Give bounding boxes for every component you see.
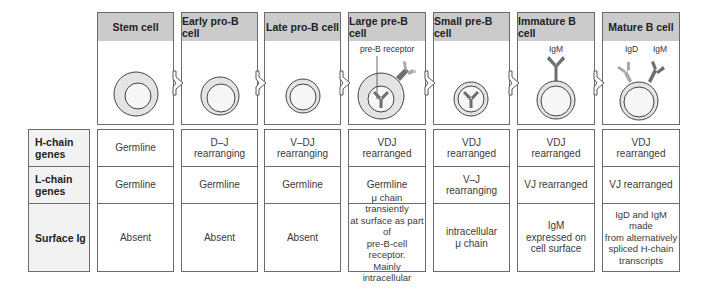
row-label-text: Surface Ig <box>35 232 86 244</box>
stage-illustration: IgD IgM <box>602 41 680 125</box>
cell-text: D–J <box>194 137 245 149</box>
progression-arrow-icon <box>424 70 436 96</box>
l-chain-cell: VJ rearranged <box>602 166 680 204</box>
cell-text: μ chain transiently <box>349 192 425 215</box>
stage-illustration <box>97 41 174 125</box>
h-chain-cell: V–DJrearranging <box>264 129 341 167</box>
stem-cell-icon <box>98 41 175 125</box>
stage-illustration <box>181 41 258 125</box>
late-pro-b-cell-icon <box>265 41 342 125</box>
stage-header: Mature B cell <box>602 12 680 42</box>
cell-text: Mainly intracellular <box>349 261 425 284</box>
surface-ig-cell: IgMexpressed oncell surface <box>517 203 595 272</box>
immature-b-cell-icon <box>518 41 596 125</box>
cell-text: VJ rearranged <box>609 179 672 191</box>
cell-text: μ chain <box>446 238 497 250</box>
row-label-h-chain: H-chaingenes <box>28 129 90 167</box>
cell-text: rearranged <box>532 148 581 160</box>
cell-text: rearranged <box>447 148 496 160</box>
cell-text: Germline <box>115 179 156 191</box>
h-chain-cell: VDJrearranged <box>433 129 510 167</box>
surface-ig-cell: μ chain transientlyat surface as part of… <box>348 203 426 272</box>
small-pre-b-cell-icon <box>434 41 511 125</box>
cell-text: rearranging <box>194 148 245 160</box>
cell-text: Absent <box>204 232 235 244</box>
h-chain-cell: Germline <box>97 129 174 167</box>
h-chain-cell: VDJrearranged <box>602 129 680 167</box>
progression-arrow-icon <box>593 70 605 96</box>
progression-arrow-icon <box>172 70 184 96</box>
surface-ig-cell: Absent <box>181 203 258 272</box>
cell-text: at surface as part of <box>349 215 425 238</box>
cell-text: expressed on <box>526 232 586 244</box>
cell-text: intracellular <box>446 226 497 238</box>
cell-text: VDJ <box>363 137 412 149</box>
l-chain-cell: Germline <box>181 166 258 204</box>
cell-text: Absent <box>120 232 151 244</box>
surface-ig-cell: Absent <box>97 203 174 272</box>
h-chain-cell: VDJrearranged <box>517 129 595 167</box>
stage-illustration: pre-B receptor <box>348 41 426 125</box>
progression-arrow-icon <box>255 70 267 96</box>
h-chain-cell: VDJrearranged <box>348 129 426 167</box>
stage-header: Immature B cell <box>517 12 595 42</box>
row-label-text: genes <box>35 148 74 160</box>
row-label-text: H-chain <box>35 136 74 148</box>
cell-text: pre-B-cell receptor. <box>349 238 425 261</box>
row-label-text: L-chain <box>35 173 72 185</box>
cell-text: spliced H-chain <box>603 243 679 255</box>
l-chain-cell: V–Jrearranging <box>433 166 510 204</box>
row-label-surface-ig: Surface Ig <box>28 203 90 272</box>
progression-arrow-icon <box>508 70 520 96</box>
cell-text: VDJ <box>617 137 666 149</box>
stage-illustration <box>433 41 510 125</box>
cell-text: rearranging <box>277 148 328 160</box>
progression-arrow-icon <box>339 70 351 96</box>
stage-header: Stem cell <box>97 12 174 42</box>
stage-illustration <box>264 41 341 125</box>
mature-b-cell-icon <box>603 41 681 125</box>
surface-ig-cell: Absent <box>264 203 341 272</box>
cell-text: IgD and IgM made <box>603 209 679 232</box>
igm-receptor-icon <box>547 56 565 82</box>
cell-text: VDJ <box>532 137 581 149</box>
cell-text: cell surface <box>526 243 586 255</box>
cell-text: Germline <box>115 142 156 154</box>
cell-text: rearranged <box>617 148 666 160</box>
cell-text: rearranging <box>446 185 497 197</box>
stage-header: Early pro-B cell <box>181 12 258 42</box>
cell-text: IgM <box>526 220 586 232</box>
surface-ig-cell: IgD and IgM madefrom alternativelysplice… <box>602 203 680 272</box>
cell-text: Absent <box>287 232 318 244</box>
row-label-l-chain: L-chaingenes <box>28 166 90 204</box>
surface-ig-cell: intracellularμ chain <box>433 203 510 272</box>
cell-text: rearranged <box>363 148 412 160</box>
large-pre-b-cell-icon <box>349 41 427 125</box>
early-pro-b-cell-icon <box>182 41 259 125</box>
cell-text: Germline <box>282 179 323 191</box>
stage-header: Large pre-B cell <box>348 12 426 42</box>
l-chain-cell: Germline <box>97 166 174 204</box>
cell-text: Germline <box>199 179 240 191</box>
stage-header: Late pro-B cell <box>264 12 341 42</box>
l-chain-cell: VJ rearranged <box>517 166 595 204</box>
cell-text: VDJ <box>447 137 496 149</box>
stage-header: Small pre-B cell <box>433 12 510 42</box>
cell-text: V–J <box>446 174 497 186</box>
cell-text: V–DJ <box>277 137 328 149</box>
pre-b-receptor-icon <box>396 61 416 81</box>
h-chain-cell: D–Jrearranging <box>181 129 258 167</box>
l-chain-cell: Germline <box>264 166 341 204</box>
igm-receptor-icon <box>648 61 665 83</box>
cell-text: transcripts <box>603 255 679 267</box>
igd-receptor-icon <box>617 62 632 83</box>
stage-illustration: IgM <box>517 41 595 125</box>
cell-text: from alternatively <box>603 232 679 244</box>
cell-text: Germline <box>367 179 408 191</box>
row-label-text: genes <box>35 185 72 197</box>
cell-text: VJ rearranged <box>524 179 587 191</box>
